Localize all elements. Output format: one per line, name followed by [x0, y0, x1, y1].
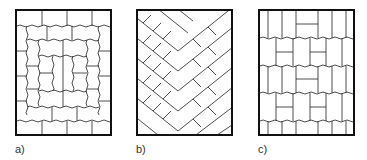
panel-c-label: c) [258, 143, 267, 155]
panel-a-concentric-paving [15, 9, 112, 136]
herringbone-paving-pattern [138, 11, 231, 134]
concentric-paving-pattern [17, 11, 110, 134]
panel-a-label: a) [15, 143, 25, 155]
panel-c-basketweave-paving [258, 9, 355, 136]
panel-b-herringbone-paving [136, 9, 233, 136]
panel-b-label: b) [136, 143, 146, 155]
basketweave-paving-pattern [260, 11, 354, 134]
